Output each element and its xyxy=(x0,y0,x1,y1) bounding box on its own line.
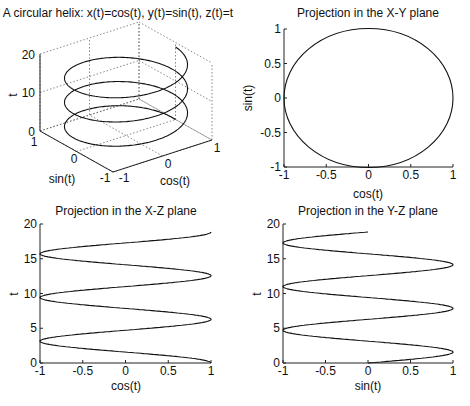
ztick-10: 10 xyxy=(22,86,36,100)
svg-text:15: 15 xyxy=(267,252,281,266)
xy-title: Projection in the X-Y plane xyxy=(297,6,439,20)
svg-text:-0.5: -0.5 xyxy=(72,364,93,378)
xz-curve xyxy=(40,232,211,363)
yz-title: Projection in the Y-Z plane xyxy=(298,204,438,218)
svg-text:10: 10 xyxy=(24,287,38,301)
figure: A circular helix: x(t)=cos(t), y(t)=sin(… xyxy=(0,0,470,406)
xy-ticks: -1-0.500.51-1-0.500.51 xyxy=(260,22,456,182)
svg-text:0: 0 xyxy=(365,364,372,378)
svg-text:-0.5: -0.5 xyxy=(316,168,337,182)
yz-axes xyxy=(283,224,453,363)
svg-text:5: 5 xyxy=(273,321,280,335)
xz-axes xyxy=(40,224,211,363)
yz-curve xyxy=(283,232,453,363)
xy-xlabel: cos(t) xyxy=(353,187,383,201)
x-label-3d: cos(t) xyxy=(160,174,190,188)
svg-text:10: 10 xyxy=(267,287,281,301)
yz-ylabel: t xyxy=(250,292,264,296)
svg-text:-0.5: -0.5 xyxy=(315,364,336,378)
xz-panel: Projection in the X-Z plane -1-0.500.510… xyxy=(7,204,215,393)
svg-text:20: 20 xyxy=(267,217,281,231)
xy-axes xyxy=(284,29,453,167)
xtick-m1: -1 xyxy=(119,171,130,185)
svg-text:0.5: 0.5 xyxy=(264,57,281,71)
xz-title: Projection in the X-Z plane xyxy=(55,204,197,218)
x-axis-3d xyxy=(113,140,212,172)
ytick-m1: -1 xyxy=(100,171,111,185)
helix-3d-panel: A circular helix: x(t)=cos(t), y(t)=sin(… xyxy=(3,6,234,188)
svg-text:1: 1 xyxy=(450,364,457,378)
yz-panel: Projection in the Y-Z plane -1-0.500.510… xyxy=(250,204,457,393)
svg-text:1: 1 xyxy=(274,22,281,36)
xy-panel: Projection in the X-Y plane -1-0.500.51-… xyxy=(241,6,457,201)
xtick-0: 0 xyxy=(165,157,172,171)
svg-text:0: 0 xyxy=(122,364,129,378)
xy-circle xyxy=(284,29,453,168)
helix-curve xyxy=(65,47,188,146)
xz-ticks: -1-0.500.5105101520 xyxy=(24,217,215,378)
xy-ylabel: sin(t) xyxy=(241,85,255,112)
svg-text:0.5: 0.5 xyxy=(160,364,177,378)
svg-text:0.5: 0.5 xyxy=(402,364,419,378)
svg-text:0: 0 xyxy=(30,356,37,370)
svg-text:5: 5 xyxy=(30,321,37,335)
svg-text:15: 15 xyxy=(24,252,38,266)
y-label-3d: sin(t) xyxy=(49,172,76,186)
xtick-1: 1 xyxy=(214,141,221,155)
svg-text:-0.5: -0.5 xyxy=(260,126,281,140)
svg-text:1: 1 xyxy=(450,168,457,182)
svg-text:0: 0 xyxy=(365,168,372,182)
xz-ylabel: t xyxy=(7,292,21,296)
svg-text:20: 20 xyxy=(24,217,38,231)
svg-text:-1: -1 xyxy=(270,160,281,174)
xz-xlabel: cos(t) xyxy=(111,379,141,393)
svg-text:0: 0 xyxy=(274,91,281,105)
ytick-1: 1 xyxy=(31,135,38,149)
svg-text:0: 0 xyxy=(273,356,280,370)
yz-xlabel: sin(t) xyxy=(355,379,382,393)
ztick-20: 20 xyxy=(22,48,36,62)
ytick-0: 0 xyxy=(71,152,78,166)
svg-text:1: 1 xyxy=(208,364,215,378)
svg-text:0.5: 0.5 xyxy=(402,168,419,182)
z-label: t xyxy=(6,93,20,97)
helix-title: A circular helix: x(t)=cos(t), y(t)=sin(… xyxy=(3,6,234,20)
